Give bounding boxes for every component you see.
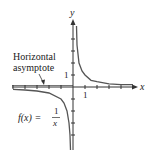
- x-axis-label: x: [139, 81, 145, 92]
- annotation-arrow-icon: [39, 74, 45, 85]
- y-tick-label-1: 1: [64, 70, 69, 80]
- y-axis-label: y: [69, 7, 75, 18]
- function-label-numerator: 1: [54, 106, 59, 116]
- y-axis: [71, 19, 76, 150]
- function-label-denominator: x: [52, 118, 57, 128]
- curve-branch-positive: [77, 26, 134, 85]
- reciprocal-function-graph: y x 1 1 Horizontal asymptote f(x) = 1 x: [0, 0, 150, 156]
- x-tick-label-1: 1: [83, 90, 88, 100]
- annotation-asymptote: asymptote: [13, 62, 55, 73]
- y-axis-arrow-icon: [71, 19, 76, 25]
- annotation-horizontal: Horizontal: [13, 51, 56, 62]
- function-label-lhs: f(x) =: [18, 112, 41, 124]
